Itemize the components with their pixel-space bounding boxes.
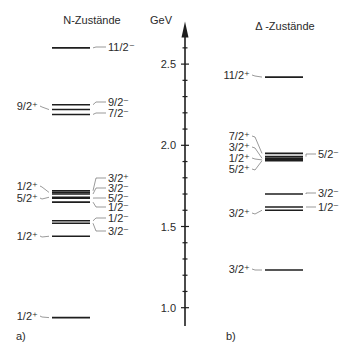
axis-tick-label: 2.0 bbox=[161, 139, 176, 151]
spin-parity-label: 11/2⁻ bbox=[108, 41, 135, 53]
leader-line bbox=[40, 186, 49, 192]
leader-line bbox=[252, 158, 262, 160]
leader-line bbox=[252, 210, 262, 214]
leader-line bbox=[93, 218, 106, 221]
spin-parity-label: 1/2⁺ bbox=[17, 230, 38, 242]
unit-label: GeV bbox=[150, 14, 173, 26]
spin-parity-label: 7/2⁻ bbox=[108, 107, 129, 119]
spin-parity-label: 3/2⁻ bbox=[318, 187, 339, 199]
baryon-level-diagram: N-Zustände GeV Δ -Zustände a) b) 1.01.52… bbox=[0, 0, 357, 363]
leader-line bbox=[252, 269, 262, 270]
axis-tick-label: 1.5 bbox=[161, 221, 176, 233]
spin-parity-label: 3/2⁺ bbox=[108, 172, 129, 184]
axis-arrow-icon bbox=[182, 22, 189, 38]
leader-line bbox=[93, 178, 106, 191]
leader-line bbox=[252, 161, 262, 170]
leader-line bbox=[306, 154, 316, 157]
leader-line bbox=[93, 188, 106, 194]
spin-parity-label: 3/2⁻ bbox=[108, 225, 129, 237]
leader-line bbox=[93, 113, 106, 114]
leader-line bbox=[93, 223, 106, 231]
leader-line bbox=[40, 316, 49, 318]
n-states-title: N-Zustände bbox=[63, 14, 120, 26]
spin-parity-label: 1/2⁻ bbox=[108, 212, 129, 224]
spin-parity-label: 1/2⁺ bbox=[229, 152, 250, 164]
panel-b-label: b) bbox=[226, 330, 236, 342]
spin-parity-label: 5/2⁺ bbox=[17, 192, 38, 204]
leader-line bbox=[40, 106, 49, 110]
leader-line bbox=[306, 193, 316, 194]
leader-line bbox=[93, 47, 106, 48]
spin-parity-label: 1/2⁻ bbox=[318, 201, 339, 213]
spin-parity-label: 3/2⁺ bbox=[229, 141, 250, 153]
panel-a-label: a) bbox=[16, 330, 26, 342]
spin-parity-label: 1/2⁺ bbox=[17, 310, 38, 322]
delta-states-title: Δ -Zustände bbox=[255, 20, 314, 32]
leader-line bbox=[40, 236, 49, 237]
delta-states-levels: 3/2⁺3/2⁺1/2⁻3/2⁻5/2⁺1/2⁺3/2⁺5/2⁻7/2⁺11/2… bbox=[223, 69, 339, 275]
spin-parity-label: 5/2⁺ bbox=[229, 163, 250, 175]
spin-parity-label: 1/2⁺ bbox=[17, 180, 38, 192]
spin-parity-label: 3/2⁺ bbox=[229, 207, 250, 219]
leader-line bbox=[252, 75, 262, 77]
spin-parity-label: 11/2⁺ bbox=[223, 69, 250, 81]
leader-line bbox=[252, 147, 262, 158]
axis-tick-label: 1.0 bbox=[161, 302, 176, 314]
spin-parity-label: 5/2⁻ bbox=[318, 148, 339, 160]
leader-line bbox=[40, 197, 49, 199]
energy-axis: 1.01.52.02.5 bbox=[161, 22, 189, 326]
leader-line bbox=[93, 202, 106, 207]
spin-parity-label: 7/2⁺ bbox=[229, 130, 250, 142]
axis-tick-label: 2.5 bbox=[161, 58, 176, 70]
spin-parity-label: 9/2⁻ bbox=[108, 96, 129, 108]
spin-parity-label: 3/2⁺ bbox=[229, 263, 250, 275]
leader-line bbox=[93, 102, 106, 105]
spin-parity-label: 9/2⁺ bbox=[17, 100, 38, 112]
n-states-levels: 1/2⁺1/2⁺3/2⁻1/2⁻1/2⁻5/2⁻5/2⁺3/2⁻1/2⁺3/2⁺… bbox=[17, 41, 135, 322]
